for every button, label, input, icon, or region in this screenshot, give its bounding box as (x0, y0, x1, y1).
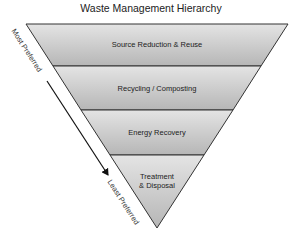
level-label-4-line1: Treatment (107, 172, 207, 181)
level-label-3: Energy Recovery (57, 128, 257, 137)
level-label-4-line2: & Disposal (107, 181, 207, 190)
level-label-2: Recycling / Composting (57, 84, 257, 93)
hierarchy-triangle (0, 0, 302, 238)
level-label-1: Source Reduction & Reuse (57, 40, 257, 49)
level-label-4: Treatment & Disposal (107, 172, 207, 190)
level-band-4 (110, 155, 204, 228)
